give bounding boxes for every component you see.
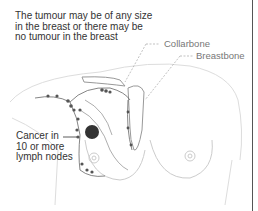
- lymph-node-callout: Cancer in 10 or more lymph nodes: [16, 131, 73, 163]
- collarbone-label: Collarbone: [164, 38, 210, 49]
- tumour-description: The tumour may be of any size in the bre…: [15, 11, 152, 43]
- breastbone-label: Breastbone: [196, 50, 245, 61]
